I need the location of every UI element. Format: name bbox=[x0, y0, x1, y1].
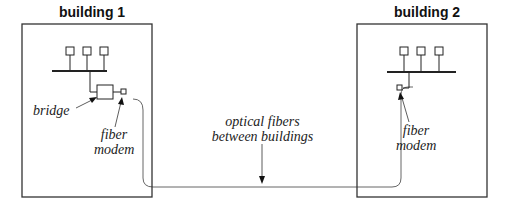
bridge-label: bridge bbox=[33, 103, 70, 118]
host-icon bbox=[400, 47, 408, 55]
building-2-fiber-modem-label: fiber modem bbox=[396, 123, 436, 153]
host-icon bbox=[417, 47, 425, 55]
host-icon bbox=[66, 47, 74, 55]
building-2-title: building 2 bbox=[394, 4, 460, 20]
building-1-fiber-modem-label: fiber modem bbox=[94, 127, 134, 157]
host-icon bbox=[83, 47, 91, 55]
building-1-lan bbox=[52, 47, 126, 99]
network-diagram bbox=[0, 0, 510, 207]
optical-fibers-label: optical fibers between buildings bbox=[205, 114, 320, 144]
host-icon bbox=[100, 47, 108, 55]
fiber-modem-icon bbox=[121, 89, 126, 94]
building-1-title: building 1 bbox=[59, 4, 125, 20]
fiber-modem-icon bbox=[397, 85, 402, 90]
bridge-icon bbox=[97, 85, 113, 99]
building-2-lan bbox=[387, 47, 456, 90]
host-icon bbox=[435, 47, 443, 55]
